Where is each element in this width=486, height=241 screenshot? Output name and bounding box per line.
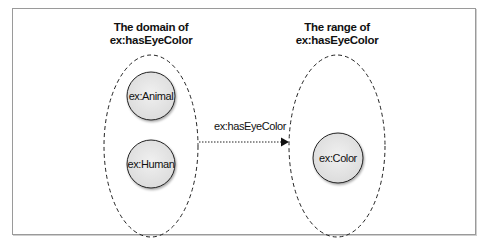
range-title-line2: ex:hasEyeColor — [287, 34, 387, 47]
range-title-line1: The range of — [287, 21, 387, 34]
domain-title: The domain of ex:hasEyeColor — [101, 21, 201, 47]
edge-label: ex:hasEyeColor — [214, 120, 286, 132]
node-color-label: ex:Color — [308, 152, 368, 164]
range-title: The range of ex:hasEyeColor — [287, 21, 387, 47]
arrowhead-icon — [281, 138, 289, 147]
node-animal-label: ex:Animal — [121, 90, 181, 102]
node-human-label: ex:Human — [121, 158, 181, 170]
domain-title-line1: The domain of — [101, 21, 201, 34]
domain-title-line2: ex:hasEyeColor — [101, 34, 201, 47]
